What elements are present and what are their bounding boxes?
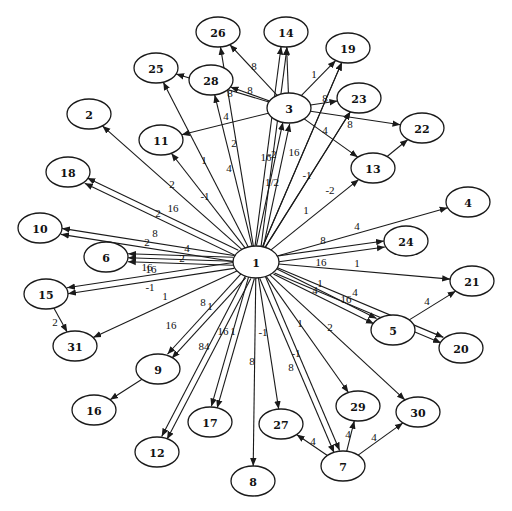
node-4: 4 — [446, 187, 490, 217]
edge-weight-label: -1 — [200, 190, 209, 202]
edge-weight-label: 4 — [310, 435, 316, 447]
node-label: 12 — [149, 447, 164, 460]
node-27: 27 — [259, 409, 303, 439]
edge-line — [301, 60, 335, 95]
node-20: 20 — [439, 333, 483, 363]
node-label: 4 — [464, 197, 472, 210]
edge-7-to-30 — [358, 423, 403, 455]
edge-1-to-17 — [211, 277, 248, 407]
edge-line — [279, 264, 450, 279]
node-18: 18 — [46, 157, 90, 187]
node-15: 15 — [24, 279, 68, 309]
edge-weight-label: -1 — [302, 169, 311, 181]
edge-9-to-16 — [110, 379, 142, 399]
edge-weight-label: -1 — [145, 281, 154, 293]
node-label: 6 — [102, 252, 110, 265]
node-21: 21 — [450, 266, 494, 296]
edge-weight-label: 2 — [179, 252, 185, 264]
edge-1-to-13 — [271, 179, 359, 249]
node-label: 23 — [351, 93, 366, 106]
edge-weight-label: 8 — [251, 60, 257, 72]
node-label: 5 — [389, 325, 397, 338]
edge-3-to-19 — [301, 60, 335, 95]
node-label: 19 — [340, 43, 355, 56]
edge-weight-label: 1 — [354, 257, 360, 269]
edge-line — [279, 247, 385, 262]
edge-1-to-18 — [87, 178, 238, 250]
edge-1-to-21 — [279, 264, 450, 279]
edge-weight-label: 1 — [230, 325, 236, 337]
edge-weight-label: 4 — [322, 124, 328, 136]
edge-13-to-22 — [387, 140, 408, 157]
node-label: 28 — [203, 75, 219, 88]
node-26: 26 — [196, 17, 240, 47]
edge-line — [358, 423, 403, 455]
node-24: 24 — [384, 226, 428, 256]
node-5: 5 — [371, 315, 415, 345]
edge-weight-label: 16 — [168, 202, 180, 214]
edge-weight-label: 8 — [322, 92, 328, 104]
node-label: 16 — [86, 405, 102, 418]
edge-weight-label: 4 — [354, 220, 360, 232]
edge-1-to-24 — [278, 241, 384, 256]
edge-weight-label: 1 — [317, 277, 323, 289]
node-28: 28 — [189, 65, 233, 95]
edge-weight-label: 2 — [155, 207, 161, 219]
node-29: 29 — [336, 391, 380, 421]
node-label: 22 — [414, 123, 429, 136]
edge-1-to-8 — [253, 278, 256, 466]
node-9: 9 — [136, 354, 180, 384]
nodes-layer: 1326141925282322131121810642421520153191… — [18, 17, 494, 496]
edge-weight-label: 8 — [200, 296, 206, 308]
edge-weight-label: 4 — [223, 110, 229, 122]
node-14: 14 — [264, 17, 308, 47]
edge-weight-label: 4 — [345, 428, 351, 440]
node-label: 9 — [154, 364, 162, 377]
edge-weight-label: 16 — [341, 293, 353, 305]
edge-weight-label: 4 — [184, 242, 190, 254]
node-8: 8 — [231, 466, 275, 496]
node-1: 1 — [233, 246, 279, 278]
edge-line — [278, 241, 384, 256]
edge-line — [211, 277, 248, 407]
edge-weight-label: 8 — [247, 84, 253, 96]
node-13: 13 — [351, 153, 395, 183]
edge-1-to-24 — [279, 247, 385, 262]
edge-weight-label: 2 — [169, 178, 175, 190]
edge-line — [273, 274, 373, 324]
edge-weight-label: 2 — [144, 236, 150, 248]
graph-canvas: -21/21616-1-21241-1216282421616-11811684… — [0, 0, 512, 511]
edge-weight-label: 2 — [52, 316, 58, 328]
node-label: 13 — [365, 163, 380, 176]
edge-weight-label: 8 — [152, 227, 158, 239]
edge-line — [261, 47, 287, 246]
edge-weight-label: 4 — [424, 295, 430, 307]
node-label: 27 — [273, 419, 288, 432]
edge-line — [275, 273, 442, 343]
edge-weight-label: 16 — [166, 319, 178, 331]
node-19: 19 — [326, 33, 370, 63]
node-31: 31 — [53, 331, 97, 361]
node-label: 3 — [285, 103, 293, 116]
node-label: 25 — [148, 63, 163, 76]
edge-1-to-17 — [217, 279, 254, 409]
edge-line — [271, 179, 359, 249]
edge-1-to-27 — [258, 278, 278, 409]
node-label: 18 — [60, 167, 76, 180]
edge-weight-label: 8 — [249, 355, 255, 367]
edge-weight-label: 84 — [199, 340, 211, 352]
edge-weight-label: 16 — [316, 256, 328, 268]
node-label: 11 — [153, 135, 168, 148]
node-30: 30 — [396, 397, 440, 427]
edge-line — [258, 278, 278, 409]
edge-line — [110, 379, 142, 399]
node-17: 17 — [188, 407, 232, 437]
node-3: 3 — [267, 93, 311, 123]
edge-line — [409, 291, 455, 320]
edge-weight-label: 4 — [352, 286, 358, 298]
node-25: 25 — [134, 53, 178, 83]
edge-weight-label: 16 — [218, 325, 230, 337]
edge-1-to-14 — [261, 47, 287, 246]
node-label: 31 — [67, 341, 82, 354]
edge-weight-label: 4 — [226, 162, 232, 174]
